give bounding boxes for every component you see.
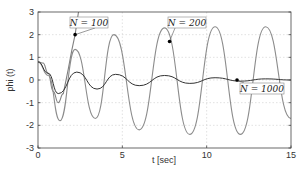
annotation-label-n1000: N = 1000: [239, 84, 284, 94]
curves: [38, 12, 291, 134]
annotation-marker: [73, 33, 77, 37]
annotation-leader: [75, 28, 95, 35]
y-tick-label: 3: [29, 7, 34, 17]
x-tick-label: 5: [120, 150, 125, 160]
y-tick-label: -1: [26, 98, 34, 108]
annotation-label-n200: N = 200: [167, 18, 207, 28]
y-tick-label: 2: [29, 30, 34, 40]
y-axis-label: phi (t): [5, 68, 15, 91]
x-tick-label: 15: [286, 150, 296, 160]
x-tick-label: 10: [202, 150, 212, 160]
x-tick-label: 0: [35, 150, 40, 160]
y-tick-label: 1: [29, 52, 34, 62]
y-tick-label: 0: [29, 75, 34, 85]
y-tick-label: -3: [26, 143, 34, 153]
annotation-label-n100: N = 100: [69, 18, 109, 28]
chart: 051015-3-2-10123 N = 100N = 200N = 1000 …: [0, 0, 304, 170]
series-n200-line: [38, 27, 291, 135]
annotation-marker: [168, 40, 172, 44]
annotation-leader: [170, 28, 175, 41]
y-tick-label: -2: [26, 120, 34, 130]
annotations: N = 100N = 200N = 1000: [69, 17, 284, 94]
x-axis-label: t [sec]: [152, 155, 176, 165]
annotation-marker: [235, 78, 239, 82]
